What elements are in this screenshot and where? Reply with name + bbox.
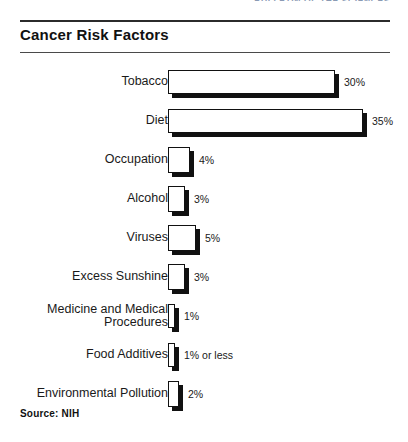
bar-row: Excess Sunshine3% <box>0 257 408 296</box>
bar-chart: Tobacco30%Diet35%Occupation4%Alcohol3%Vi… <box>0 62 408 413</box>
bar-label: Environmental Pollution <box>3 387 168 401</box>
bar-label: Tobacco <box>3 75 168 89</box>
bar-value-label: 1% <box>184 310 199 322</box>
bar-wrapper: 2% <box>168 381 203 407</box>
bar-label: Alcohol <box>3 192 168 206</box>
bar-value-label: 35% <box>372 115 393 127</box>
bar-value-label: 3% <box>194 271 209 283</box>
bar-wrapper: 5% <box>168 225 220 251</box>
source-note: Source: NIH <box>20 408 79 419</box>
bar-row: Diet35% <box>0 101 408 140</box>
bar-label: Diet <box>3 114 168 128</box>
running-header: BULLETIN OF THE SCIENCES <box>254 0 390 1</box>
bar-value-label: 3% <box>194 193 209 205</box>
bar-value-label: 1% or less <box>184 349 233 361</box>
bar-row: Alcohol3% <box>0 179 408 218</box>
bar <box>168 109 363 133</box>
bar-wrapper: 35% <box>168 109 393 133</box>
bar-wrapper: 3% <box>168 264 209 290</box>
bar-row: Viruses5% <box>0 218 408 257</box>
bar-wrapper: 4% <box>168 147 214 173</box>
title-rule-bottom <box>20 52 390 53</box>
bar <box>168 225 196 251</box>
bar-label: Food Additives <box>3 348 168 362</box>
bar-wrapper: 1% or less <box>168 343 233 367</box>
bar <box>168 186 185 212</box>
bar-value-label: 4% <box>199 154 214 166</box>
page-title: Cancer Risk Factors <box>20 26 169 43</box>
bar <box>168 304 175 328</box>
bar <box>168 343 175 367</box>
bar-wrapper: 1% <box>168 304 199 328</box>
bar-label: Occupation <box>3 153 168 167</box>
bar-label: Medicine and Medical Procedures <box>3 302 168 329</box>
bar <box>168 381 179 407</box>
bar <box>168 147 190 173</box>
bar-value-label: 2% <box>188 388 203 400</box>
bar-value-label: 30% <box>344 76 365 88</box>
bar-wrapper: 3% <box>168 186 209 212</box>
bar-row: Tobacco30% <box>0 62 408 101</box>
bar-label: Viruses <box>3 231 168 245</box>
bar <box>168 70 335 94</box>
bar-row: Occupation4% <box>0 140 408 179</box>
bar-value-label: 5% <box>205 232 220 244</box>
bar-row: Medicine and Medical Procedures1% <box>0 296 408 335</box>
title-rule-top <box>20 20 390 22</box>
bar-row: Food Additives1% or less <box>0 335 408 374</box>
bar <box>168 264 185 290</box>
bar-label: Excess Sunshine <box>3 270 168 284</box>
bar-wrapper: 30% <box>168 70 365 94</box>
